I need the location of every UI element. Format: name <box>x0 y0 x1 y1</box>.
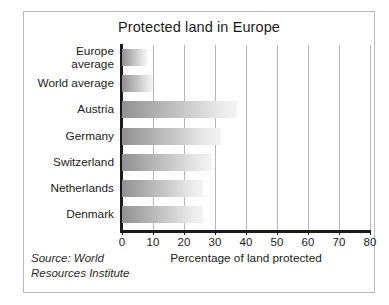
bar <box>122 180 203 197</box>
category-label: Germany <box>4 130 114 143</box>
category-label: Netherlands <box>4 182 114 195</box>
category-label: Switzerland <box>4 156 114 169</box>
x-tick-label-10: 10 <box>147 236 160 248</box>
bar <box>122 154 212 171</box>
chart-title: Protected land in Europe <box>23 19 375 35</box>
bar <box>122 101 237 118</box>
plot-area <box>122 45 370 230</box>
category-label: World average <box>4 77 114 90</box>
bar <box>122 49 147 66</box>
category-label: Europe average <box>4 45 114 71</box>
bar <box>122 128 221 145</box>
x-tick-label-0: 0 <box>119 236 125 248</box>
bar <box>122 206 203 223</box>
x-axis-label: Percentage of land protected <box>122 251 370 265</box>
x-tick-label-60: 60 <box>302 236 315 248</box>
source-note: Source: World Resources Institute <box>31 251 129 280</box>
chart-figure: Protected land in Europe 010203040506070… <box>0 0 389 305</box>
category-label: Denmark <box>4 208 114 221</box>
x-tick-label-20: 20 <box>178 236 191 248</box>
x-tick-label-40: 40 <box>240 236 253 248</box>
x-axis-line <box>120 230 371 233</box>
x-tick-label-30: 30 <box>209 236 222 248</box>
category-label: Austria <box>4 103 114 116</box>
x-tick-label-80: 80 <box>364 236 377 248</box>
bar <box>122 75 153 92</box>
gridline-80 <box>370 45 371 230</box>
x-tick-label-50: 50 <box>271 236 284 248</box>
x-tick-label-70: 70 <box>333 236 346 248</box>
